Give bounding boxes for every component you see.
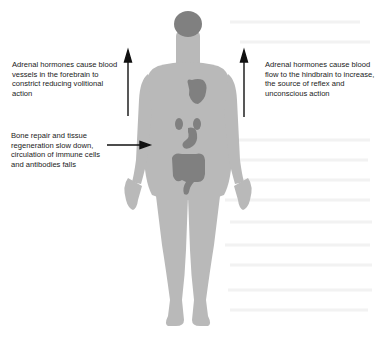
arrow-right-up-head bbox=[241, 50, 248, 62]
kidney-left bbox=[175, 118, 183, 130]
brain bbox=[174, 11, 202, 37]
human-body-figure bbox=[0, 0, 376, 339]
annotation-immune: Bone repair and tissue regeneration slow… bbox=[11, 131, 111, 169]
kidney-right bbox=[193, 118, 201, 130]
arrow-left-up-head bbox=[125, 50, 132, 62]
annotation-hindbrain: Adrenal hormones cause blood flow to the… bbox=[265, 60, 375, 98]
annotation-forebrain: Adrenal hormones cause blood vessels in … bbox=[12, 60, 122, 98]
